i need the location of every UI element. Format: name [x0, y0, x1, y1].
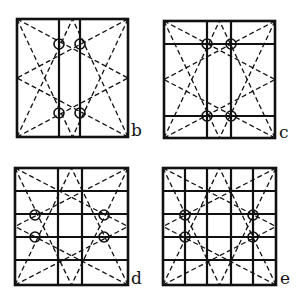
outer-frame	[15, 168, 128, 285]
panel-label-d: d	[131, 270, 142, 287]
outer-frame	[163, 168, 276, 285]
panel-label-b: b	[131, 122, 142, 139]
grid-star-diagram	[0, 0, 304, 298]
outer-frame	[164, 21, 275, 138]
panel-label-c: c	[279, 124, 289, 141]
panel-d	[15, 168, 128, 285]
outer-frame	[17, 19, 128, 137]
panel-e	[163, 168, 276, 285]
panel-b	[17, 19, 128, 137]
panel-c	[164, 21, 275, 138]
panel-label-e: e	[280, 270, 290, 287]
